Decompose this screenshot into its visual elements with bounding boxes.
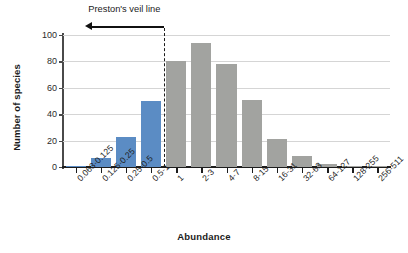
- y-axis-title: Number of species: [11, 48, 22, 168]
- x-axis-title: Abundance: [0, 231, 408, 242]
- y-tick-label: 20: [27, 136, 57, 146]
- y-tick-label: 80: [27, 56, 57, 66]
- prestons-veil-line: [164, 28, 165, 167]
- x-tick-label: 1: [175, 173, 186, 184]
- veil-arrow-icon: [85, 22, 164, 32]
- x-tick-label: 2-3: [200, 167, 216, 183]
- bar: [166, 61, 186, 167]
- bar: [216, 64, 236, 167]
- bar: [267, 139, 287, 167]
- y-tick-label: 0: [27, 162, 57, 172]
- y-tick-label: 60: [27, 83, 57, 93]
- y-tick-label: 100: [27, 30, 57, 40]
- veil-line-label: Preston's veil line: [88, 4, 160, 14]
- y-tick-label: 40: [27, 109, 57, 119]
- preston-plot-figure: Number of species 020406080100 Preston's…: [0, 0, 408, 253]
- gridline: [63, 61, 390, 62]
- bar: [242, 100, 262, 167]
- x-tick-mark: [76, 168, 77, 173]
- x-tick-label: 4-7: [226, 167, 242, 183]
- bar: [191, 43, 211, 167]
- x-tick-mark: [227, 168, 228, 173]
- gridline: [63, 35, 390, 36]
